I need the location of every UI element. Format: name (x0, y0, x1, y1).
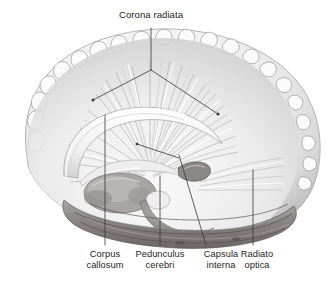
label-radiato-optica: Radiato optica (228, 249, 286, 271)
brain-illustration-svg (0, 0, 333, 284)
label-pedunculus-cerebri: Pedunculus cerebri (126, 249, 194, 271)
lateral-ventricle-detail (178, 162, 211, 181)
label-corona-radiata: Corona radiata (103, 9, 199, 20)
brain-anatomy-figure (0, 0, 333, 284)
